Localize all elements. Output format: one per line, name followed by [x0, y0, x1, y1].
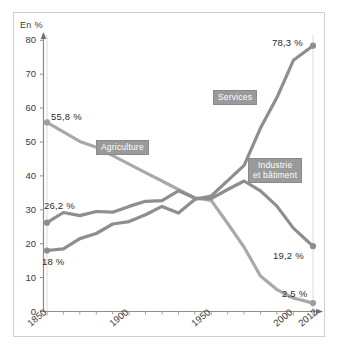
value-label-agriculture-end: 2,5 % — [282, 288, 307, 299]
datapoint-industrie-end — [310, 243, 316, 249]
value-label-services-start: 18 % — [42, 256, 64, 267]
datapoint-agriculture-start — [44, 119, 50, 125]
series-line-services — [47, 46, 313, 251]
y-tick-label-80: 80 — [18, 34, 36, 45]
value-label-agriculture-start: 55,8 % — [51, 111, 82, 122]
chart-figure: En % 0 10 20 30 40 50 60 70 80 1850 1900… — [0, 0, 337, 350]
series-tag-industrie: Industrie et bâtiment — [248, 158, 302, 183]
y-tick-label-10: 10 — [18, 272, 36, 283]
y-tick-label-20: 20 — [18, 238, 36, 249]
y-tick-label-60: 60 — [18, 102, 36, 113]
datapoint-agriculture-end — [310, 300, 316, 306]
series-tag-industrie-line2: et bâtiment — [253, 170, 297, 180]
y-tick-label-70: 70 — [18, 68, 36, 79]
y-tick-label-50: 50 — [18, 136, 36, 147]
value-label-industrie-start: 26,2 % — [44, 200, 75, 211]
y-tick-label-30: 30 — [18, 204, 36, 215]
y-axis-arrow — [41, 32, 47, 39]
value-label-industrie-end: 19,2 % — [273, 250, 304, 261]
value-label-services-end: 78,3 % — [272, 37, 303, 48]
datapoint-industrie-start — [44, 220, 50, 226]
datapoint-services-start — [44, 247, 50, 253]
y-axis-unit-label: En % — [20, 20, 43, 30]
datapoint-services-end — [310, 43, 316, 49]
series-tag-industrie-line1: Industrie — [258, 160, 292, 170]
series-tag-services: Services — [213, 90, 257, 105]
series-tag-agriculture: Agriculture — [96, 140, 149, 155]
y-tick-label-40: 40 — [18, 170, 36, 181]
